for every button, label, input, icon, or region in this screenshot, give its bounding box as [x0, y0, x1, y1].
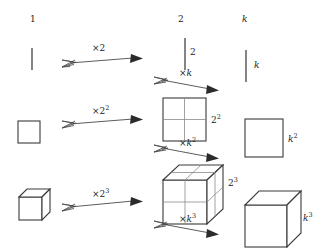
arrow-xkcu-base: ×k	[179, 214, 192, 224]
arrow-xkcu-label: ×k3	[179, 213, 196, 224]
arrow-xkcu-exponent: 3	[192, 212, 196, 220]
diagram-canvas: 1 2 k 2 k ×2 ×k 22	[0, 0, 322, 251]
arrow-xkcu	[0, 0, 322, 251]
